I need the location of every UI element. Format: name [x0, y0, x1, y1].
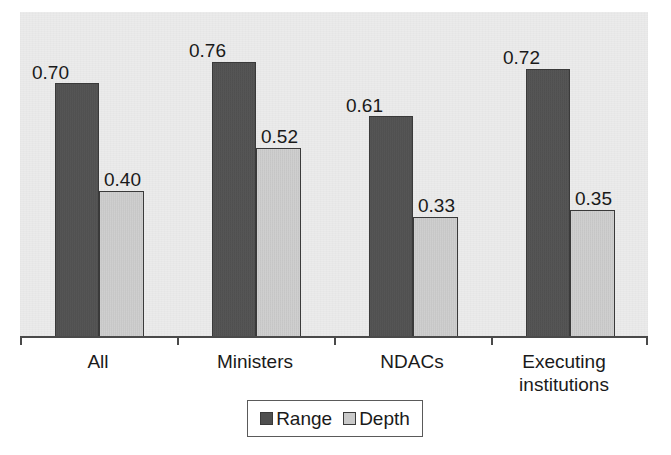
- bar-range-all: [55, 83, 99, 337]
- bar-depth-all: [99, 191, 144, 337]
- legend-label-depth: Depth: [359, 409, 410, 428]
- bar-range-executing: [526, 69, 570, 337]
- x-axis-tick-1: [177, 336, 179, 345]
- value-label-depth-ndacs: 0.33: [418, 196, 455, 216]
- x-axis-label-all: All: [13, 350, 183, 373]
- value-label-range-executing: 0.72: [503, 48, 540, 68]
- bar-depth-executing: [570, 210, 615, 337]
- value-label-range-all: 0.70: [32, 63, 69, 83]
- legend-entry-range: Range: [260, 409, 332, 428]
- legend-swatch-depth-icon: [343, 412, 356, 425]
- value-label-depth-ministers: 0.52: [261, 127, 298, 147]
- x-axis-tick-2: [334, 336, 336, 345]
- x-axis-tick-3: [491, 336, 493, 345]
- chart-legend: Range Depth: [247, 400, 423, 437]
- bar-depth-ndacs: [413, 217, 458, 337]
- bar-depth-ministers: [256, 148, 301, 337]
- bar-range-ministers: [212, 62, 256, 337]
- bar-chart: 0.70 0.40 0.76 0.52 0.61 0.33 0.72 0.35 …: [0, 0, 671, 455]
- legend-swatch-range-icon: [260, 412, 273, 425]
- value-label-range-ndacs: 0.61: [346, 96, 383, 116]
- value-label-depth-executing: 0.35: [575, 189, 612, 209]
- legend-label-range: Range: [276, 409, 332, 428]
- x-axis-tick-end: [646, 336, 648, 345]
- legend-entry-depth: Depth: [343, 409, 410, 428]
- value-label-depth-all: 0.40: [104, 170, 141, 190]
- value-label-range-ministers: 0.76: [189, 41, 226, 61]
- bar-range-ndacs: [369, 116, 413, 337]
- x-axis-tick-start: [20, 336, 22, 345]
- x-axis-label-ndacs: NDACs: [327, 350, 497, 373]
- x-axis-label-executing: Executing institutions: [479, 350, 649, 396]
- x-axis-label-ministers: Ministers: [170, 350, 340, 373]
